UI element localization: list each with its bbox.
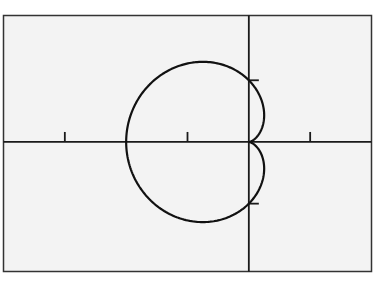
plot-frame [4, 16, 372, 272]
cardioid-plot [0, 0, 375, 284]
